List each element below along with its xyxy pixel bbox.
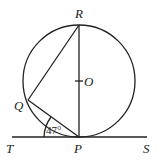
label-o: O: [84, 74, 94, 89]
angle-label: 47°: [46, 124, 61, 136]
geometry-diagram: R O Q P T S 47°: [0, 0, 160, 160]
label-r: R: [74, 6, 83, 21]
label-s: S: [143, 141, 150, 156]
chord-rq: [28, 25, 79, 100]
label-q: Q: [14, 98, 24, 113]
label-t: T: [6, 141, 14, 156]
label-p: P: [73, 141, 82, 156]
